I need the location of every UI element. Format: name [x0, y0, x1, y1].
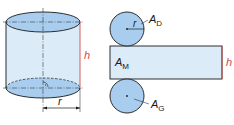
cylinder	[3, 8, 83, 112]
net-height-label: h	[226, 56, 232, 68]
cylinder-height-label: h	[84, 49, 90, 61]
bottom-area-label: AG	[150, 98, 165, 113]
cylinder-net-diagram: h r r AD AM h AG	[0, 0, 234, 125]
top-area-label: AD	[148, 13, 162, 28]
